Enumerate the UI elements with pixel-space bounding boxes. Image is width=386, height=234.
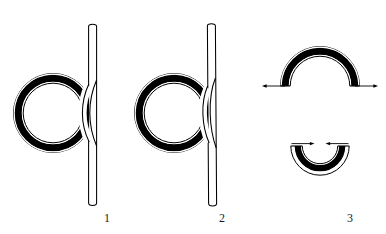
figure-3-group (262, 47, 378, 176)
figure-3-upper-arrows (262, 84, 378, 87)
figure-1-rod (82, 24, 96, 205)
figure-3-caption: 3 (347, 212, 354, 224)
figure-3-upper-arc (281, 47, 360, 86)
figure-2-rod (203, 24, 217, 206)
arrow-right-inward-icon (326, 142, 349, 145)
illustration-canvas (0, 0, 386, 234)
figure-1-group (14, 24, 97, 205)
figure-3-lower-arrows (292, 142, 349, 145)
figure-1-caption: 1 (104, 212, 111, 224)
figure-plate: 1 2 3 (0, 0, 386, 234)
figure-3-lower-arc (291, 146, 349, 175)
figure-2-group (135, 24, 217, 206)
figure-2-caption: 2 (219, 212, 226, 224)
arrow-left-inward-icon (292, 142, 315, 145)
